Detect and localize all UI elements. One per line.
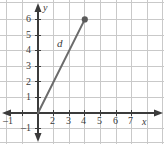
x-tick-label-4: 4: [81, 116, 86, 126]
x-tick-label-5: 5: [97, 116, 102, 126]
y-axis-label: y: [43, 3, 47, 13]
x-tick-label-7: 7: [128, 116, 133, 126]
x-tick-label-2: 2: [50, 116, 55, 126]
y-tick-label-5: 5: [26, 30, 31, 40]
y-tick-label-neg1: –1: [21, 123, 31, 133]
endpoint-marker: [82, 16, 88, 22]
y-tick-label-6: 6: [26, 14, 31, 24]
x-axis-label: x: [142, 117, 146, 127]
y-tick-label-2: 2: [26, 77, 31, 87]
x-tick-label-neg1: –1: [3, 116, 13, 126]
x-tick-label-6: 6: [113, 116, 118, 126]
y-tick-label-1: 1: [26, 92, 31, 102]
x-tick-label-3: 3: [66, 116, 71, 126]
y-tick-label-4: 4: [26, 45, 31, 55]
coordinate-grid-figure: 6 5 4 3 2 1 –1 –1 2 3 4 5 6 7 y x d: [0, 0, 164, 144]
segment-label-d: d: [57, 38, 63, 49]
y-tick-label-3: 3: [26, 61, 31, 71]
